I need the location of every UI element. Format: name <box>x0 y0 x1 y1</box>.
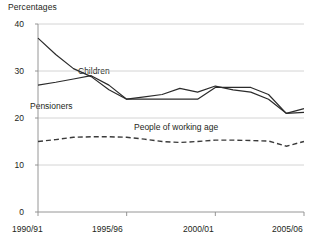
gridlines <box>38 24 304 165</box>
plot-area <box>0 0 316 242</box>
series-line-pensioners <box>38 38 304 113</box>
series-lines <box>38 38 304 146</box>
percentages-line-chart: Percentages 40 30 20 10 0 1990/91 1995/9… <box>0 0 316 242</box>
series-line-people-of-working-age <box>38 137 304 146</box>
axis-ticks <box>35 24 304 216</box>
series-line-children <box>38 76 304 114</box>
